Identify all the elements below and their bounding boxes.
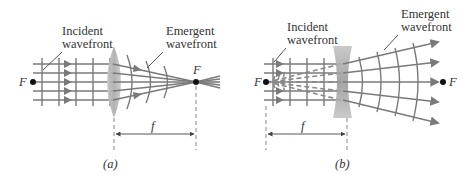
emergent-rays-a: [113, 64, 220, 100]
incident-label-b-line1: Incident: [287, 20, 328, 34]
focal-label-left-b: F: [253, 75, 262, 89]
incident-label-b-line2: wavefront: [287, 33, 338, 47]
caption-b: (b): [335, 157, 350, 171]
focal-label-left-a: F: [18, 75, 27, 89]
focal-length-label-a: f: [151, 119, 156, 133]
focal-point-right-b: [440, 79, 446, 85]
emergent-label-a-line2: wavefront: [166, 37, 217, 51]
focal-label-right-b: F: [448, 75, 457, 89]
incident-rays-a: [33, 60, 113, 104]
emergent-label-b-line2: wavefront: [401, 20, 452, 34]
incident-label-a-line1: Incident: [62, 24, 103, 38]
emergent-leader-b: [384, 35, 398, 50]
caption-a: (a): [103, 157, 118, 171]
lens-wavefront-diagram: F F Incident wavefront Emergent wavefron…: [0, 0, 475, 180]
focal-point-right-a: [193, 79, 199, 85]
incident-label-a-line2: wavefront: [62, 37, 113, 51]
emergent-leader-a: [147, 52, 163, 68]
focal-point-left-a: [30, 79, 36, 85]
incident-leader-b: [274, 48, 286, 62]
panel-a: F F Incident wavefront Emergent wavefron…: [18, 24, 220, 171]
focal-label-right-a: F: [192, 63, 201, 77]
emergent-label-a-line1: Emergent: [166, 24, 215, 38]
focal-length-label-b: f: [301, 119, 306, 133]
panel-b: F F Incident wavefront Emergent wavefron…: [253, 7, 457, 171]
emergent-rays-b: [343, 42, 438, 123]
emergent-label-b-line1: Emergent: [401, 7, 450, 21]
focal-point-left-b: [263, 79, 269, 85]
